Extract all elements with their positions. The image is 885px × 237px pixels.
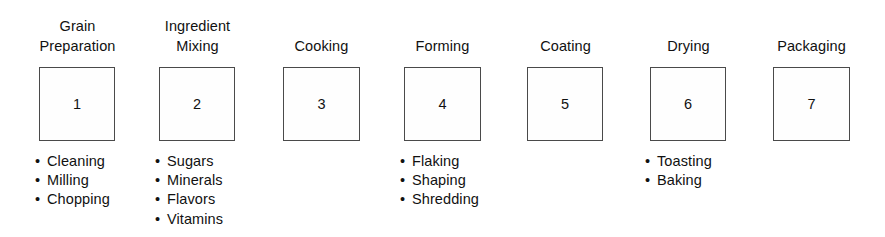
- list-item: •Sugars: [155, 152, 223, 171]
- stage-title-drying: Drying: [631, 36, 746, 56]
- stage-number-drying: 6: [684, 97, 692, 112]
- list-item-label: Shaping: [412, 172, 466, 188]
- bullet-icon: •: [400, 152, 405, 171]
- bullet-icon: •: [35, 152, 40, 171]
- list-item: •Minerals: [155, 171, 223, 190]
- list-item-label: Minerals: [167, 172, 223, 188]
- stage-box-drying[interactable]: 6: [650, 67, 726, 141]
- list-item-label: Flaking: [412, 153, 459, 169]
- list-item: •Vitamins: [155, 210, 223, 229]
- bullet-icon: •: [155, 171, 160, 190]
- stage-packaging: Packaging7: [754, 0, 869, 237]
- list-item: •Cleaning: [35, 152, 110, 171]
- stage-title-grain-preparation: Grain Preparation: [20, 16, 135, 56]
- bullet-icon: •: [35, 190, 40, 209]
- stage-coating: Coating5: [508, 0, 623, 237]
- stage-drying: Drying6•Toasting•Baking: [631, 0, 746, 237]
- stage-list-grain-preparation: •Cleaning•Milling•Chopping: [35, 152, 110, 210]
- stage-list-forming: •Flaking•Shaping•Shredding: [400, 152, 479, 210]
- list-item-label: Flavors: [167, 191, 215, 207]
- stage-title-packaging: Packaging: [754, 36, 869, 56]
- list-item: •Flavors: [155, 190, 223, 209]
- bullet-icon: •: [645, 171, 650, 190]
- stage-number-grain-preparation: 1: [73, 97, 81, 112]
- stage-title-forming: Forming: [385, 36, 500, 56]
- stage-box-grain-preparation[interactable]: 1: [39, 67, 115, 141]
- stage-forming: Forming4•Flaking•Shaping•Shredding: [385, 0, 500, 237]
- list-item: •Baking: [645, 171, 712, 190]
- list-item: •Flaking: [400, 152, 479, 171]
- list-item-label: Milling: [47, 172, 89, 188]
- process-flow-diagram: Grain Preparation1•Cleaning•Milling•Chop…: [0, 0, 885, 237]
- bullet-icon: •: [155, 190, 160, 209]
- list-item-label: Sugars: [167, 153, 214, 169]
- stage-box-cooking[interactable]: 3: [283, 67, 360, 141]
- list-item-label: Chopping: [47, 191, 110, 207]
- stage-list-drying: •Toasting•Baking: [645, 152, 712, 190]
- bullet-icon: •: [645, 152, 650, 171]
- stage-title-ingredient-mixing: Ingredient Mixing: [140, 16, 255, 56]
- list-item: •Milling: [35, 171, 110, 190]
- stage-grain-preparation: Grain Preparation1•Cleaning•Milling•Chop…: [20, 0, 135, 237]
- stage-title-cooking: Cooking: [264, 36, 379, 56]
- stage-number-cooking: 3: [317, 97, 325, 112]
- stage-number-ingredient-mixing: 2: [193, 97, 201, 112]
- list-item-label: Shredding: [412, 191, 479, 207]
- list-item-label: Vitamins: [167, 211, 223, 227]
- list-item: •Toasting: [645, 152, 712, 171]
- bullet-icon: •: [400, 171, 405, 190]
- stage-number-forming: 4: [438, 97, 446, 112]
- list-item: •Shaping: [400, 171, 479, 190]
- list-item-label: Toasting: [657, 153, 712, 169]
- bullet-icon: •: [155, 152, 160, 171]
- stage-cooking: Cooking3: [264, 0, 379, 237]
- stage-title-coating: Coating: [508, 36, 623, 56]
- bullet-icon: •: [35, 171, 40, 190]
- list-item: •Chopping: [35, 190, 110, 209]
- stage-list-ingredient-mixing: •Sugars•Minerals•Flavors•Vitamins: [155, 152, 223, 229]
- stage-box-packaging[interactable]: 7: [773, 67, 850, 141]
- bullet-icon: •: [400, 190, 405, 209]
- list-item-label: Cleaning: [47, 153, 105, 169]
- bullet-icon: •: [155, 210, 160, 229]
- stage-number-coating: 5: [561, 97, 569, 112]
- list-item-label: Baking: [657, 172, 702, 188]
- list-item: •Shredding: [400, 190, 479, 209]
- stage-box-forming[interactable]: 4: [404, 67, 481, 141]
- stage-ingredient-mixing: Ingredient Mixing2•Sugars•Minerals•Flavo…: [140, 0, 255, 237]
- stage-box-coating[interactable]: 5: [527, 67, 603, 141]
- stage-number-packaging: 7: [807, 97, 815, 112]
- stage-box-ingredient-mixing[interactable]: 2: [159, 67, 235, 141]
